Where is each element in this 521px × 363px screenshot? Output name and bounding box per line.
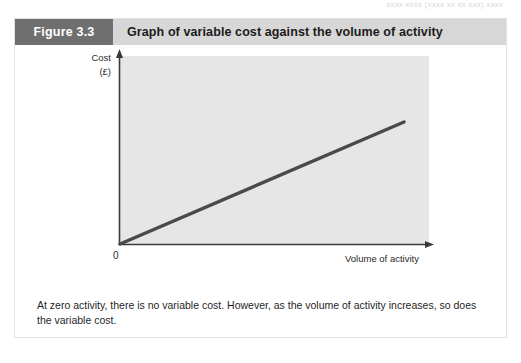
x-axis-label: Volume of activity (345, 253, 419, 264)
x-axis-arrowhead (425, 241, 434, 248)
variable-cost-chart: Cost (£) 0 Volume of activity (15, 45, 506, 294)
figure-title: Graph of variable cost against the volum… (113, 19, 506, 45)
figure-number-label: Figure 3.3 (15, 19, 113, 45)
figure-caption: At zero activity, there is no variable c… (15, 294, 506, 337)
y-axis-arrowhead (116, 49, 123, 58)
page-running-head: xxxx xxxx (xxxx xx xx xxx) xxxx (0, 0, 521, 9)
figure-header: Figure 3.3 Graph of variable cost agains… (15, 19, 506, 45)
y-axis-unit-label: (£) (99, 66, 111, 77)
y-axis-label: Cost (91, 52, 111, 63)
plot-region: Cost (£) 0 Volume of activity (15, 45, 506, 294)
figure-card: Figure 3.3 Graph of variable cost agains… (14, 18, 507, 338)
plot-panel-background (120, 56, 429, 244)
origin-label: 0 (113, 250, 119, 261)
